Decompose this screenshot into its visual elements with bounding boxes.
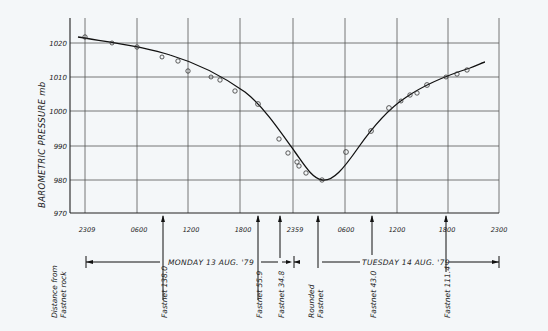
location-labels: Fastnet 138.0 Fastnet 55.9 Fastnet 34.8 … [160, 266, 452, 318]
y-tick: 970 [54, 210, 68, 218]
y-tick: 980 [54, 177, 68, 185]
svg-text:Fastnet rock: Fastnet rock [59, 271, 68, 318]
x-tick-labels: 2309 0600 1200 1800 2359 0600 1200 1800 … [79, 226, 508, 234]
horizontal-gridlines [70, 43, 499, 180]
location-label: Fastnet 34.8 [277, 271, 286, 318]
location-label: Fastnet 138.0 [160, 266, 169, 318]
y-tick: 1020 [49, 40, 67, 48]
x-tick: 2359 [287, 226, 304, 234]
x-tick: 1200 [389, 226, 406, 234]
day-span-tuesday: TUESDAY 14 AUG. '79 [294, 256, 499, 268]
pressure-curve [78, 37, 485, 180]
location-label: Fastnet 43.0 [369, 271, 378, 318]
y-axis-label: BAROMETRIC PRESSURE mb [37, 81, 47, 208]
vertical-gridlines [85, 18, 499, 213]
y-tick-labels: 1020 1010 1000 990 980 970 [49, 40, 67, 218]
x-tick: 2300 [491, 226, 508, 234]
x-tick: 2309 [79, 226, 96, 234]
x-tick: 0600 [131, 226, 148, 234]
data-points [83, 35, 469, 182]
x-tick: 1200 [183, 226, 200, 234]
svg-text:Distance from: Distance from [50, 265, 59, 318]
x-tick: 1800 [235, 226, 252, 234]
location-label: Fastnet 111.4 [443, 266, 452, 318]
location-label: Rounded [307, 284, 316, 318]
location-label: Fastnet 55.9 [255, 271, 264, 318]
y-tick: 1000 [49, 108, 67, 116]
location-label: Fastnet [316, 289, 325, 318]
y-tick: 1010 [49, 74, 67, 82]
tuesday-label: TUESDAY 14 AUG. '79 [362, 258, 450, 267]
x-tick: 0600 [338, 226, 355, 234]
monday-label: MONDAY 13 AUG. '79 [168, 258, 254, 267]
y-tick: 990 [54, 143, 68, 151]
x-tick: 1800 [439, 226, 456, 234]
distance-label: Distance from Fastnet rock [50, 265, 68, 318]
day-span-monday: MONDAY 13 AUG. '79 [86, 256, 292, 268]
pressure-chart: 1020 1010 1000 990 980 970 BAROMETRIC PR… [0, 0, 548, 331]
